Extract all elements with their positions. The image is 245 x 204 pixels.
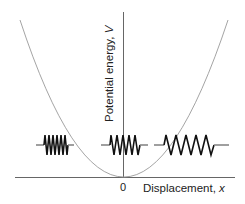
diagram-canvas [0, 0, 245, 204]
spring-equilibrium [101, 135, 148, 155]
spring-compressed [36, 135, 74, 155]
origin-label: 0 [120, 181, 126, 193]
x-axis-label: Displacement, x [143, 182, 225, 194]
y-axis-label: Potential energy, V [103, 26, 115, 122]
